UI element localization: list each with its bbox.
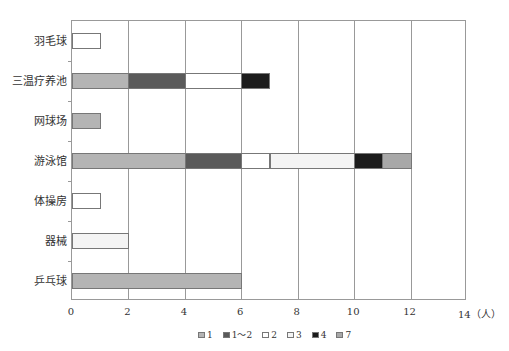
legend-item: 1 [198,330,213,340]
bar-segment [72,73,129,89]
x-axis-label: 6 [237,306,243,317]
legend-swatch [312,332,319,338]
bar-segment [241,73,270,89]
x-axis-label: 8 [294,306,300,317]
y-tick [68,181,72,182]
y-tick [68,261,72,262]
legend-item: 2 [262,330,277,340]
bar-segment [72,153,186,169]
legend-label: 1 [207,330,213,340]
bar-segment [241,153,270,169]
bar-segment [128,73,185,89]
bar-segment [72,273,242,289]
legend-item: 4 [312,330,327,340]
legend-label: 7 [345,330,351,340]
x-axis-label: 4 [181,306,187,317]
x-axis-label: 14（人） [458,306,501,321]
plot-area [71,20,466,300]
bar-segment [72,193,101,209]
legend-item: 7 [336,330,351,340]
bar-segment [72,233,129,249]
y-tick [68,61,72,62]
y-axis-label: 游泳馆 [34,152,67,168]
y-axis-label: 乒乓球 [34,272,67,288]
bar-segment [72,33,101,49]
y-axis-label: 网球场 [34,112,67,128]
legend-swatch [262,332,269,338]
x-axis-label: 10 [347,306,360,317]
bar-segment [270,153,356,169]
x-axis-label: 12 [403,306,416,317]
y-axis-label: 器械 [45,232,67,248]
y-axis-label: 三温疗养池 [12,72,67,88]
bar-segment [185,153,242,169]
legend-swatch [198,332,205,338]
y-tick [68,141,72,142]
bar-segment [382,153,411,169]
bar-segment [185,73,242,89]
legend-swatch [223,332,230,338]
legend: 11～22347 [198,328,351,341]
legend-swatch [287,332,294,338]
y-axis-label: 羽毛球 [34,32,67,48]
legend-label: 1～2 [232,328,252,341]
legend-label: 4 [321,330,327,340]
bar-segment [354,153,383,169]
legend-swatch [336,332,343,338]
y-tick [68,221,72,222]
y-axis-label: 体操房 [34,192,67,208]
legend-item: 3 [287,330,302,340]
legend-label: 2 [271,330,277,340]
x-axis-label: 2 [124,306,130,317]
legend-label: 3 [296,330,302,340]
bar-segment [72,113,101,129]
legend-item: 1～2 [223,328,252,341]
y-tick [68,101,72,102]
x-axis-label: 0 [68,306,74,317]
